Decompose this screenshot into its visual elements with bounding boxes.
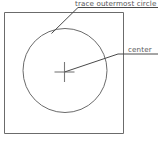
diagram-canvas: trace outermost circle center bbox=[0, 0, 160, 141]
leader-line-trace-outermost-circle bbox=[52, 8, 159, 34]
label-trace-outermost-circle: trace outermost circle bbox=[75, 0, 157, 8]
label-center: center bbox=[128, 45, 152, 54]
diagram-svg: trace outermost circle center bbox=[0, 0, 160, 141]
leader-line-center bbox=[65, 54, 159, 72]
